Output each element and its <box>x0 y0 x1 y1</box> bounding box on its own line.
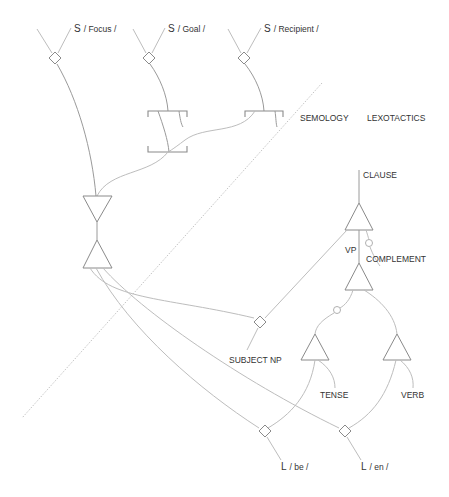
lexeme-en-label: L/ en / <box>361 461 389 472</box>
optional-circle-icon <box>334 307 341 314</box>
lexeme-be-label: L/ be / <box>281 461 309 472</box>
sememe-focus <box>37 28 96 196</box>
clause-structure <box>265 170 397 334</box>
sememe-goal <box>133 28 168 111</box>
connection-to-en <box>103 268 339 428</box>
optional-circle-icon <box>366 240 373 247</box>
sememe-goal-label: S/ Goal / <box>168 23 206 34</box>
lexotactics-label: LEXOTACTICS <box>367 113 426 123</box>
relational-network-diagram: S/ Focus / S/ Goal / S/ Recipient / SEMO… <box>0 0 449 497</box>
upward-and-triangle-icon <box>83 240 112 268</box>
subject-np-label: SUBJECT NP <box>229 355 282 365</box>
connection-goal-to-focus <box>97 152 168 196</box>
diamond-node-icon <box>143 52 155 64</box>
sememe-recipient-label: S/ Recipient / <box>264 23 319 34</box>
verb-label: VERB <box>401 390 424 400</box>
diamond-node-icon <box>238 52 250 64</box>
semology-label: SEMOLOGY <box>300 113 349 123</box>
lexeme-en-diamond-icon <box>339 425 351 437</box>
diamond-node-icon <box>49 52 61 64</box>
complement-label: COMPLEMENT <box>366 254 426 264</box>
verb-and-triangle-icon <box>383 334 411 360</box>
sememe-recipient <box>228 28 264 111</box>
tense-and-triangle-icon <box>301 334 329 360</box>
clause-label: CLAUSE <box>363 170 397 180</box>
sememe-focus-label: S/ Focus / <box>74 23 117 34</box>
downward-and-triangle-icon <box>83 196 112 222</box>
stratum-boundary-line <box>22 83 322 418</box>
clause-and-triangle-icon <box>345 203 373 230</box>
vp-label: VP <box>345 245 357 255</box>
connection-to-be <box>96 268 259 428</box>
connection-to-subject-np <box>90 268 254 318</box>
vp-and-triangle-icon <box>345 263 373 290</box>
tense-label: TENSE <box>320 390 349 400</box>
ordered-and-node-goal <box>148 111 187 152</box>
subject-np-diamond-icon <box>254 316 266 328</box>
